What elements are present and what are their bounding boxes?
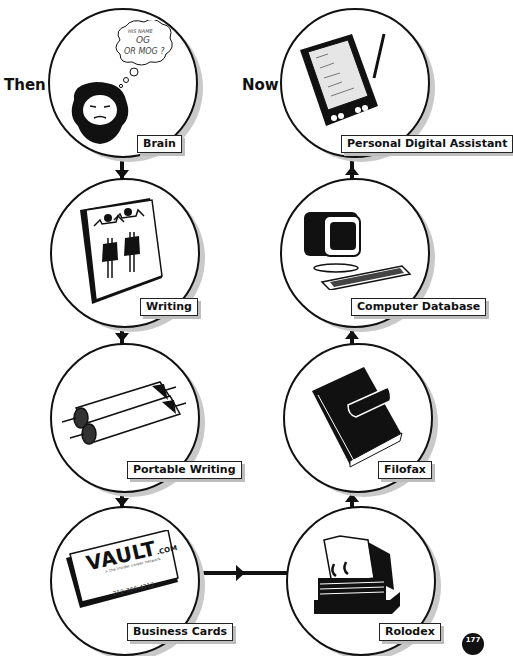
- label-rolodex: Rolodex: [379, 623, 441, 641]
- arrow-down-icon: [115, 333, 129, 343]
- heading-now: Now: [242, 76, 279, 94]
- label-filofax: Filofax: [378, 461, 432, 479]
- label-writing: Writing: [140, 298, 198, 316]
- thought-line-1: HIS NAME: [128, 28, 153, 34]
- arrow-up-icon: [345, 166, 359, 176]
- label-pda: Personal Digital Assistant: [341, 135, 513, 153]
- computer-icon: [302, 210, 412, 290]
- thought-line-2: OG: [136, 35, 150, 45]
- rolodex-icon: [312, 530, 407, 620]
- stone-tablet-icon: [78, 198, 168, 308]
- label-business-cards: Business Cards: [127, 623, 233, 641]
- scrolls-icon: [62, 378, 192, 448]
- label-portable-writing: Portable Writing: [127, 461, 242, 479]
- page-number-badge: 177: [462, 633, 484, 655]
- label-brain: Brain: [137, 135, 182, 153]
- arrow-right-icon: [236, 565, 246, 581]
- thought-line-3: OR MOG ?: [124, 47, 165, 56]
- label-computer-database: Computer Database: [351, 298, 486, 316]
- pda-icon: [298, 30, 393, 130]
- heading-then: Then: [4, 76, 46, 94]
- organizer-book-icon: [310, 365, 405, 470]
- arrow-up-icon: [345, 493, 359, 503]
- arrow-up-icon: [345, 330, 359, 340]
